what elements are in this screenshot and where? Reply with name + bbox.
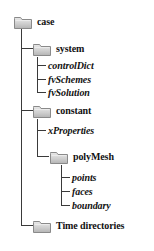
directory-tree-diagram: case system controlDict fvSchemes fvSolu… xyxy=(0,0,154,251)
tree-branch-line-polymesh xyxy=(37,156,49,157)
tree-branch-line-boundary xyxy=(61,205,70,206)
tree-trunk-line-constant xyxy=(37,119,38,156)
folder-icon xyxy=(33,220,51,233)
tree-trunk-line-polymesh xyxy=(61,165,62,205)
tree-node-label: boundary xyxy=(72,201,111,211)
tree-node-polymesh[interactable]: polyMesh xyxy=(50,149,114,165)
folder-icon xyxy=(50,151,68,164)
tree-node-label: case xyxy=(37,17,54,27)
tree-node-label: fvSolution xyxy=(48,88,90,98)
tree-branch-line-points xyxy=(61,177,70,178)
folder-icon xyxy=(33,105,51,118)
tree-node-label: polyMesh xyxy=(73,152,114,162)
tree-branch-line-fvschemes xyxy=(37,79,46,80)
tree-node-label: constant xyxy=(56,106,91,116)
tree-node-case[interactable]: case xyxy=(14,14,54,30)
folder-icon xyxy=(33,43,51,56)
tree-branch-line-controldict xyxy=(37,65,46,66)
tree-node-boundary[interactable]: boundary xyxy=(72,198,111,214)
tree-branch-line-fvsolution xyxy=(37,92,46,93)
tree-node-label: Time directories xyxy=(56,221,124,231)
tree-node-label: fvSchemes xyxy=(48,75,91,85)
tree-branch-line-constant xyxy=(21,110,33,111)
tree-node-time-directories[interactable]: Time directories xyxy=(33,218,124,234)
tree-node-constant[interactable]: constant xyxy=(33,103,91,119)
tree-branch-line-xproperties xyxy=(37,130,46,131)
tree-node-fvsolution[interactable]: fvSolution xyxy=(48,85,90,101)
tree-node-label: points xyxy=(72,173,96,183)
tree-node-label: xProperties xyxy=(48,126,94,136)
tree-branch-line-faces xyxy=(61,191,70,192)
folder-icon xyxy=(14,16,32,29)
tree-trunk-line-root xyxy=(21,29,22,225)
tree-node-label: system xyxy=(56,44,84,54)
tree-branch-line-time-directories xyxy=(21,225,33,226)
tree-node-label: faces xyxy=(72,187,93,197)
tree-node-xproperties[interactable]: xProperties xyxy=(48,123,94,139)
tree-node-system[interactable]: system xyxy=(33,41,84,57)
tree-node-label: controlDict xyxy=(48,61,94,71)
tree-branch-line-system xyxy=(21,48,33,49)
tree-trunk-line-system xyxy=(37,57,38,92)
